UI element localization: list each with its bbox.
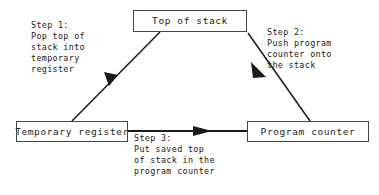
step-2-annotation: Step 2: Push program counter onto the st…	[267, 27, 332, 71]
arrow-step2-head-icon	[251, 62, 266, 78]
step-1-annotation: Step 1: Pop top of stack into temporary …	[31, 20, 85, 75]
stack-operation-diagram: Top of stack Temporary register Program …	[0, 0, 379, 195]
node-top-of-stack-label: Top of stack	[152, 16, 228, 26]
node-temporary-register[interactable]: Temporary register	[16, 121, 128, 142]
arrow-step1-head-icon	[104, 72, 118, 86]
step-3-annotation: Step 3: Put saved top of stack in the pr…	[134, 133, 215, 177]
arrow-step1-line	[72, 32, 160, 121]
node-top-of-stack[interactable]: Top of stack	[133, 10, 247, 32]
node-program-counter-label: Program counter	[261, 127, 356, 137]
arrow-step1-top-of-stack-to-temporary-register	[72, 32, 160, 121]
node-temporary-register-label: Temporary register	[15, 127, 129, 137]
node-program-counter[interactable]: Program counter	[247, 121, 369, 142]
